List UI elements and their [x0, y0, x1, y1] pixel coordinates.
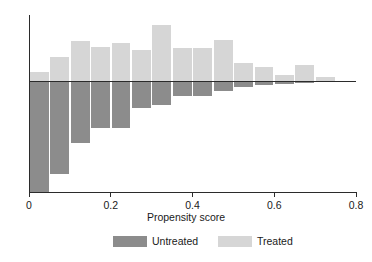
bar-treated-11	[255, 67, 274, 81]
bar-treated-1	[50, 57, 69, 81]
x-tick-label-0: 0	[26, 199, 32, 211]
chart-canvas: 00.20.40.60.8 Propensity score Untreated…	[0, 0, 372, 262]
bar-treated-7	[173, 48, 192, 81]
bar-untreated-4	[112, 81, 131, 128]
bar-untreated-3	[91, 81, 110, 128]
x-tick-label-3: 0.6	[267, 199, 282, 211]
bar-treated-6	[152, 25, 171, 81]
bar-treated-2	[71, 41, 90, 81]
bar-treated-5	[132, 50, 151, 81]
bar-untreated-0	[30, 81, 49, 192]
x-tick-label-2: 0.4	[185, 199, 200, 211]
x-tick-label-4: 0.8	[349, 199, 364, 211]
bar-untreated-5	[132, 81, 151, 108]
bar-untreated-10	[234, 81, 253, 87]
bar-untreated-7	[173, 81, 192, 96]
bar-treated-10	[234, 63, 253, 81]
legend-swatch-treated	[218, 236, 252, 247]
bar-untreated-9	[214, 81, 233, 91]
bar-untreated-1	[50, 81, 69, 174]
bar-untreated-11	[255, 81, 274, 85]
legend-label-treated: Treated	[257, 235, 293, 247]
bar-treated-0	[30, 72, 49, 81]
x-axis-title: Propensity score	[147, 211, 225, 223]
bar-treated-14	[316, 77, 335, 81]
bar-treated-4	[112, 43, 131, 81]
bar-treated-9	[214, 40, 233, 81]
bar-treated-3	[91, 47, 110, 81]
bar-untreated-6	[152, 81, 171, 105]
bar-untreated-2	[71, 81, 90, 143]
x-tick-label-1: 0.2	[103, 199, 118, 211]
legend-label-untreated: Untreated	[152, 235, 198, 247]
propensity-score-overlap-chart: 00.20.40.60.8 Propensity score Untreated…	[0, 0, 372, 262]
bar-treated-12	[275, 75, 294, 81]
bar-untreated-8	[193, 81, 212, 96]
bar-treated-13	[295, 65, 314, 81]
bar-treated-8	[193, 48, 212, 81]
legend-swatch-untreated	[113, 236, 147, 247]
